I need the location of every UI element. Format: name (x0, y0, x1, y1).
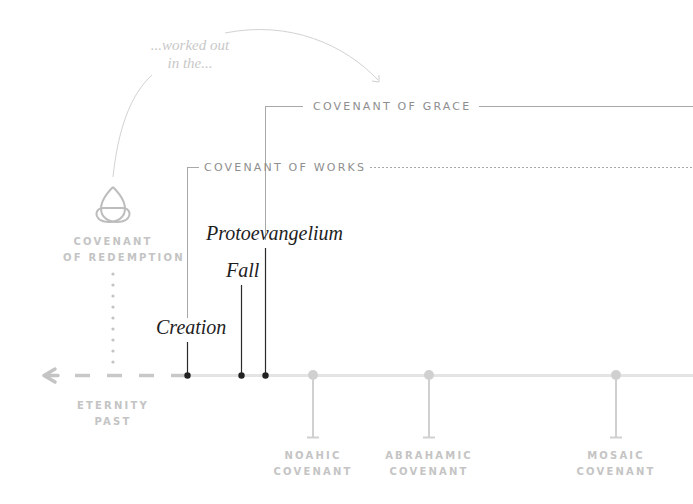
mosaic-line-2: COVENANT (566, 464, 666, 480)
event-fall: Fall (226, 259, 259, 282)
redemption-to-grace-arc-upper (225, 30, 378, 80)
redemption-line-1: COVENANT (63, 234, 163, 250)
event-creation: Creation (156, 316, 226, 339)
mosaic-line-1: MOSAIC (566, 448, 666, 464)
abrahamic-marker (423, 370, 435, 438)
abrahamic-covenant-label: ABRAHAMIC COVENANT (374, 448, 484, 480)
eternity-line-1: ETERNITY (63, 398, 163, 414)
eternity-past-label: ETERNITY PAST (63, 398, 163, 430)
noahic-line-2: COVENANT (263, 464, 363, 480)
eternity-line-2: PAST (63, 414, 163, 430)
redemption-line-2: OF REDEMPTION (63, 250, 163, 266)
covenant-of-redemption-label: COVENANT OF REDEMPTION (63, 234, 163, 266)
redemption-to-grace-arc (113, 75, 152, 177)
event-protoevangelium: Protoevangelium (206, 222, 343, 245)
noahic-marker (307, 370, 319, 438)
arrow-down-right-icon (372, 75, 379, 82)
annotation-note: ...worked out in the... (140, 36, 240, 72)
triquetra-icon (97, 187, 130, 222)
abrahamic-line-1: ABRAHAMIC (374, 448, 484, 464)
annotation-line-2: in the... (140, 54, 240, 72)
noahic-line-1: NOAHIC (263, 448, 363, 464)
noahic-covenant-label: NOAHIC COVENANT (263, 448, 363, 480)
mosaic-marker (610, 370, 622, 438)
redemption-dotted-line (111, 272, 114, 363)
abrahamic-line-2: COVENANT (374, 464, 484, 480)
covenant-of-grace-label: COVENANT OF GRACE (313, 100, 471, 113)
covenant-of-works-label: COVENANT OF WORKS (204, 161, 366, 174)
annotation-line-1: ...worked out (140, 36, 240, 54)
mosaic-covenant-label: MOSAIC COVENANT (566, 448, 666, 480)
arrow-left-icon (44, 369, 58, 382)
